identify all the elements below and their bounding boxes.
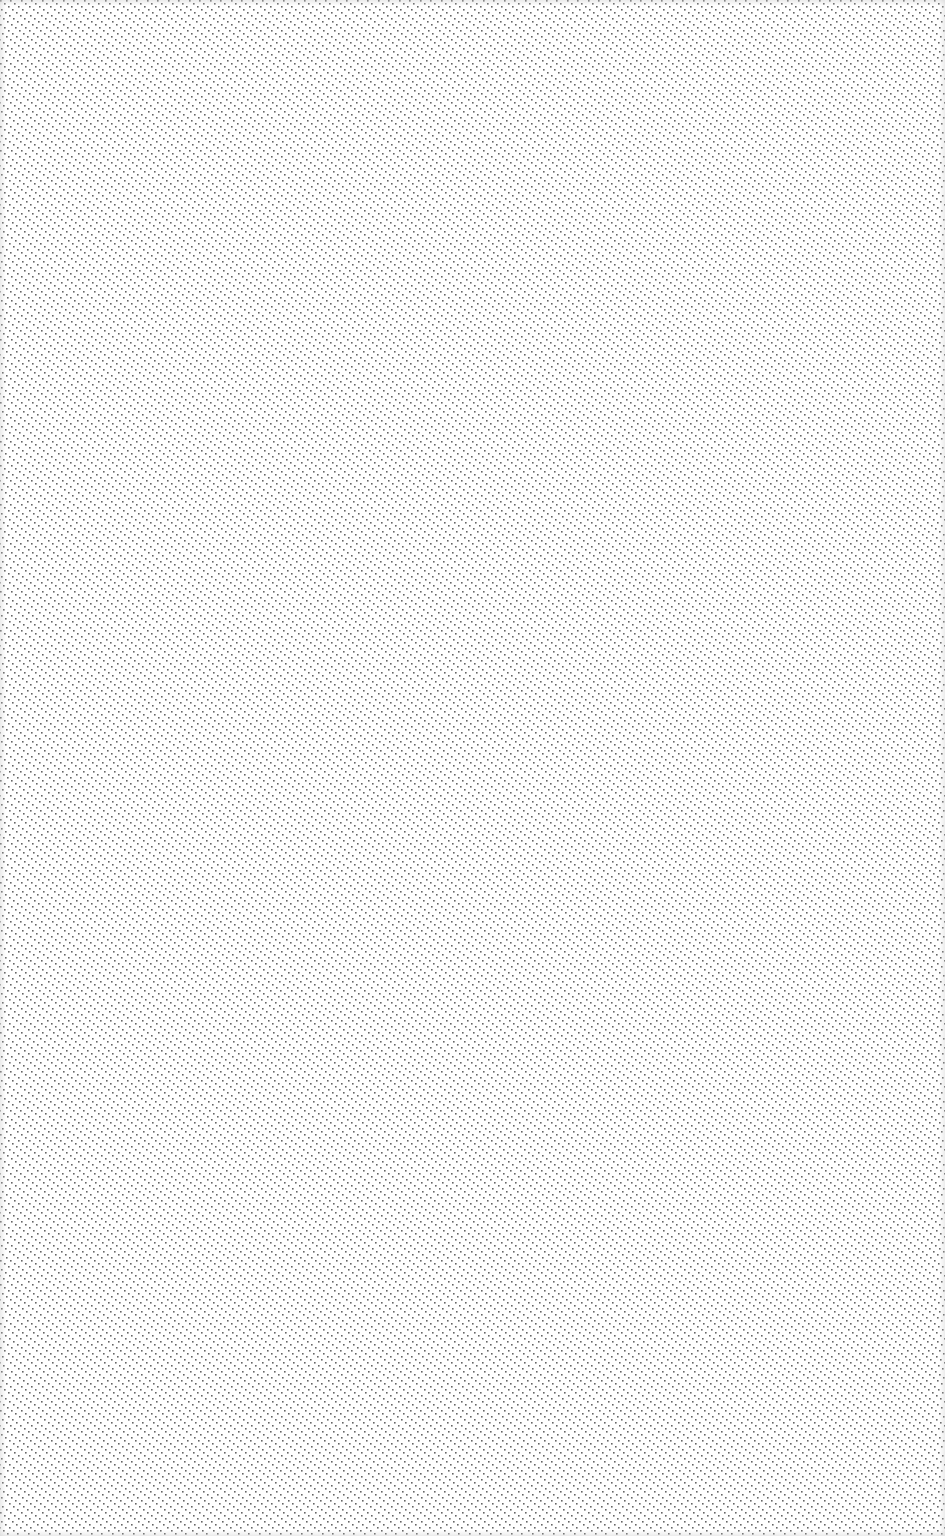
dotted-diagonal-pattern-background xyxy=(0,0,945,1536)
diagonal-dot-texture xyxy=(0,0,945,1536)
